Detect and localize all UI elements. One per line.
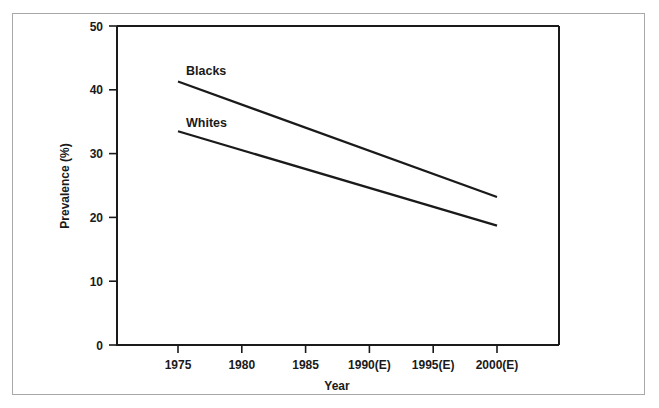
y-tick-label-10: 10: [90, 275, 104, 289]
y-tick-label-20: 20: [90, 211, 104, 225]
axes-group: [117, 26, 559, 345]
y-tick-label-0: 0: [96, 339, 103, 353]
x-axis-title: Year: [324, 379, 350, 393]
x-tick-label-1985: 1985: [292, 358, 319, 372]
axis-lines: [117, 26, 559, 345]
y-tick-label-40: 40: [90, 83, 104, 97]
x-tick-label-1980: 1980: [228, 358, 255, 372]
x-tick-label-1995: 1995(E): [412, 358, 455, 372]
y-tick-label-50: 50: [90, 20, 104, 34]
y-axis-ticks: [109, 26, 117, 345]
y-axis-tick-labels: 0 10 20 30 40 50: [90, 20, 104, 353]
x-axis-ticks: [178, 345, 497, 353]
figure-root: 0 10 20 30 40 50 Prevalence (%) 1975 198…: [0, 0, 659, 408]
y-axis-title: Prevalence (%): [58, 143, 72, 228]
x-tick-label-1990: 1990(E): [348, 358, 391, 372]
x-axis-tick-labels: 1975 1980 1985 1990(E) 1995(E) 2000(E): [165, 358, 519, 372]
y-tick-label-30: 30: [90, 147, 104, 161]
x-tick-label-2000: 2000(E): [476, 358, 519, 372]
line-chart: 0 10 20 30 40 50 Prevalence (%) 1975 198…: [0, 0, 659, 408]
data-series-group: [178, 82, 497, 226]
x-tick-label-1975: 1975: [165, 358, 192, 372]
series-label-whites: Whites: [186, 116, 227, 130]
series-label-blacks: Blacks: [186, 64, 226, 78]
